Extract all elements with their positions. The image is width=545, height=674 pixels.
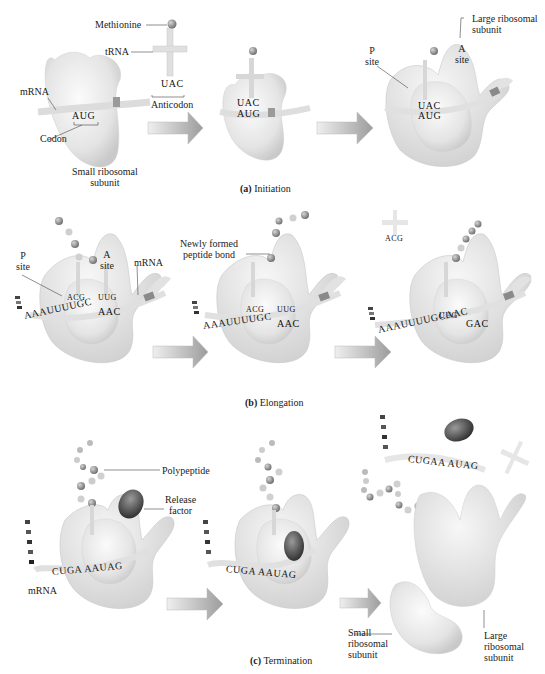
stage1-anticodon-2: UUG — [98, 293, 117, 302]
codon-sequence: AUG — [72, 110, 95, 121]
panel-a-stage2 — [220, 47, 310, 160]
label-small-subunit: Small ribosomalsubunit — [72, 166, 138, 188]
label-newly-formed-peptide-bond: Newly formedpeptide bond — [180, 238, 238, 260]
released-trna-icon — [382, 210, 408, 235]
panel-b-stage3 — [368, 210, 531, 363]
panel-a-stage3 — [377, 18, 510, 166]
arrow-b1 — [153, 336, 208, 368]
released-large-subunit — [414, 485, 526, 606]
label-p-site: Psite — [365, 45, 379, 67]
panel-c-stage2 — [203, 440, 349, 609]
label-large-subunit: Large ribosomalsubunit — [472, 13, 538, 35]
mrna-tail — [15, 296, 22, 309]
stage3-released-anticodon: ACG — [385, 234, 403, 243]
stage3-codon-3: GAC — [466, 318, 489, 329]
arrow-c1 — [167, 588, 223, 620]
stage3-codon: AUG — [418, 110, 441, 121]
label-codon: Codon — [40, 133, 67, 144]
label-mrna: mRNA — [20, 86, 49, 97]
stage2-anticodon-2: UUG — [277, 305, 296, 314]
panel-b-stage1 — [15, 217, 168, 363]
mrna-band — [113, 97, 120, 107]
arrow-a2 — [317, 112, 373, 144]
arrow-b2 — [335, 336, 391, 368]
panel-c-stage1 — [25, 440, 174, 609]
label-mrna: mRNA — [28, 585, 57, 596]
mrna-tail — [25, 520, 34, 564]
caption-termination: (c) Termination — [250, 655, 312, 666]
panel-a-stage1 — [38, 20, 187, 167]
stage1-codon-2: AAC — [98, 306, 121, 317]
label-large-subunit: Largeribosomalsubunit — [484, 630, 524, 663]
stage2-codon: AUG — [237, 108, 260, 119]
panel-c-stage3 — [354, 415, 529, 654]
released-trna-icon — [500, 441, 529, 474]
label-small-subunit: Smallribosomalsubunit — [348, 627, 388, 660]
polypeptide-chain — [74, 440, 105, 507]
label-release-factor: Releasefactor — [165, 494, 196, 516]
label-p-site: Psite — [16, 250, 30, 272]
arrow-a1 — [148, 112, 203, 144]
label-mrna: mRNA — [134, 257, 163, 268]
trna-icon — [153, 20, 187, 77]
caption-elongation: (b) Elongation — [245, 397, 304, 408]
label-a-site: Asite — [455, 43, 469, 65]
arrow-c2 — [340, 588, 381, 618]
label-trna: tRNA — [105, 46, 129, 57]
released-polypeptide — [361, 469, 422, 514]
label-polypeptide: Polypeptide — [162, 465, 210, 476]
label-anticodon: Anticodon — [151, 99, 193, 110]
anticodon-sequence: UAC — [161, 78, 184, 89]
label-a-site: Asite — [100, 249, 114, 271]
methionine-amino-acid-icon — [168, 20, 177, 29]
stage2-codon-2: AAC — [277, 318, 300, 329]
label-methionine: Methionine — [95, 19, 141, 30]
stage2-anticodon: UAC — [237, 97, 260, 108]
panel-b-stage2 — [192, 211, 343, 363]
caption-initiation: (a) Initiation — [240, 183, 291, 194]
